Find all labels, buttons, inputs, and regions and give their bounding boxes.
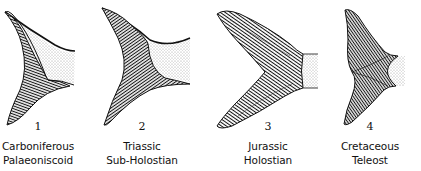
group-label: Teleost [315,153,421,167]
period-label: Triassic [87,139,197,153]
group-label: Palaeoniscoid [0,153,93,167]
period-label: Cretaceous [315,139,421,153]
period-label: Jurassic [213,139,323,153]
panel-caption-1: Carboniferous Palaeoniscoid [0,139,93,167]
group-label: Sub-Holostian [87,153,197,167]
panel-caption-4: Cretaceous Teleost [315,139,421,167]
group-label: Holostian [213,153,323,167]
panel-number-3: 3 [253,121,283,133]
tail-4-homocercal-teleost [344,10,405,125]
tail-1-heterocercal [5,11,75,125]
panel-caption-3: Jurassic Holostian [213,139,323,167]
period-label: Carboniferous [0,139,93,153]
tail-2-abbreviated-heterocercal [102,8,190,125]
panel-number-4: 4 [355,121,385,133]
panel-number-1: 1 [23,121,53,133]
panel-caption-2: Triassic Sub-Holostian [87,139,197,167]
panel-number-2: 2 [127,121,157,133]
tail-3-homocercal-holostian [217,11,318,128]
